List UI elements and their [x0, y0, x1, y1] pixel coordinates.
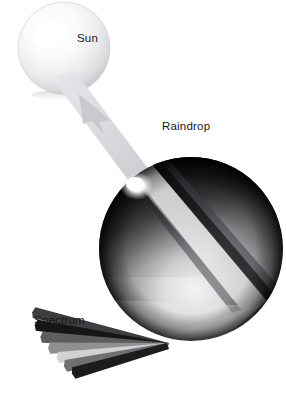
label-sun: Sun [77, 33, 98, 45]
label-spectrum: Spectrum [34, 315, 85, 327]
raindrop-sphere [99, 157, 283, 352]
label-raindrop: Raindrop [162, 121, 210, 133]
figure-canvas [0, 0, 286, 410]
